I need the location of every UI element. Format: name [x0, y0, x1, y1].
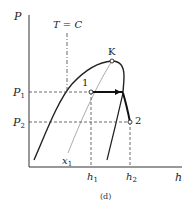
saturated-liquid-curve [34, 61, 112, 160]
isotherm-label: T = C [53, 20, 82, 30]
x-axis-label: h [175, 172, 182, 183]
x1-subscript: 1 [68, 160, 72, 168]
expansion-curve [123, 93, 130, 122]
saturated-vapor-curve [112, 61, 124, 93]
critical-point-marker [110, 59, 114, 63]
x1-label: x1 [62, 156, 72, 168]
h1-subscript: 1 [93, 176, 97, 184]
h1-label: h1 [87, 172, 98, 184]
arrow-head-icon [115, 89, 121, 95]
figure-caption: (d) [100, 193, 111, 201]
state-1-label: 1 [82, 78, 88, 88]
vapor-branch-lower [107, 93, 123, 160]
p2-label: P2 [13, 117, 25, 130]
p2-subscript: 2 [20, 122, 24, 130]
p1-subscript: 1 [20, 92, 24, 100]
h2-label: h2 [126, 172, 137, 184]
quality-line-x1 [68, 61, 112, 153]
p1-label: P1 [13, 87, 25, 100]
state-2-marker [128, 120, 132, 124]
state-1-marker [89, 90, 93, 94]
state-2-label: 2 [135, 116, 141, 126]
h2-subscript: 2 [132, 176, 136, 184]
critical-point-label: K [108, 47, 115, 57]
y-axis-label: P [14, 11, 21, 22]
